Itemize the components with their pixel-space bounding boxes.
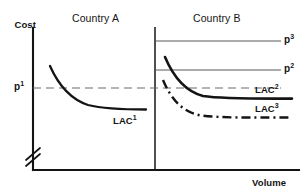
figure-container: Cost Volume Country A Country B p1 p2 p3… (0, 0, 306, 196)
lac3-label-exponent: 3 (275, 102, 279, 109)
p2-label-exponent: 2 (290, 62, 294, 69)
p1-label: p1 (14, 82, 24, 92)
p3-label-exponent: 3 (290, 33, 294, 40)
p2-label: p2 (284, 64, 294, 74)
panel-title-country-a: Country A (72, 13, 119, 24)
lac2-label-exponent: 2 (275, 83, 279, 90)
lac1-label: LAC1 (113, 116, 137, 126)
lac3-label-base: LAC (255, 103, 275, 114)
lac2-label-base: LAC (255, 84, 275, 95)
p3-label: p3 (284, 35, 294, 45)
lac1-label-base: LAC (113, 115, 133, 126)
lac1-label-exponent: 1 (133, 114, 137, 121)
y-axis-title: Cost (14, 20, 36, 30)
x-axis-title: Volume (252, 178, 286, 188)
lac2-label: LAC2 (255, 85, 279, 95)
lac3-label: LAC3 (255, 104, 279, 114)
figure-canvas (0, 0, 306, 196)
panel-title-country-b: Country B (193, 13, 241, 24)
p1-label-exponent: 1 (20, 80, 24, 87)
